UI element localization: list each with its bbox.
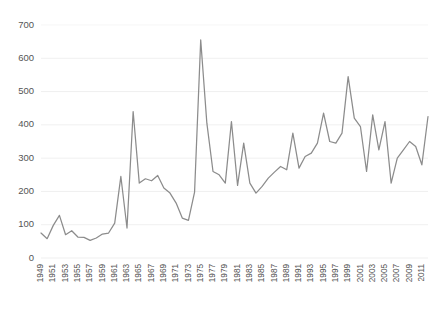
x-tick-label-1953: 1953 — [61, 264, 70, 283]
x-tick-label-1991: 1991 — [294, 264, 303, 283]
y-tick-label-500: 500 — [18, 85, 34, 96]
y-tick-label-700: 700 — [18, 19, 34, 30]
plot-area: 0100200300400500600700 19491951195319551… — [0, 0, 440, 317]
chart-container: 0100200300400500600700 19491951195319551… — [0, 0, 440, 317]
x-tick-label-1989: 1989 — [282, 264, 291, 283]
x-tick-label-1993: 1993 — [306, 264, 315, 283]
x-tick-label-1951: 1951 — [48, 264, 57, 283]
x-tick-label-1995: 1995 — [319, 264, 328, 283]
x-tick-label-1983: 1983 — [245, 264, 254, 283]
x-tick-label-1975: 1975 — [196, 264, 205, 283]
y-tick-label-300: 300 — [18, 152, 34, 163]
y-tick-label-600: 600 — [18, 52, 34, 63]
x-tick-label-1979: 1979 — [220, 264, 229, 283]
x-tick-label-2009: 2009 — [405, 264, 414, 283]
x-tick-label-1959: 1959 — [98, 264, 107, 283]
y-tick-label-200: 200 — [18, 185, 34, 196]
y-tick-label-100: 100 — [18, 218, 34, 229]
x-tick-label-1963: 1963 — [122, 264, 131, 283]
x-tick-label-1981: 1981 — [233, 264, 242, 283]
x-tick-label-1985: 1985 — [257, 264, 266, 283]
x-tick-label-2001: 2001 — [356, 264, 365, 283]
x-tick-label-1997: 1997 — [331, 264, 340, 283]
x-tick-label-2005: 2005 — [380, 264, 389, 283]
x-tick-label-1987: 1987 — [270, 264, 279, 283]
x-axis-ticks-group: 1949195119531955195719591961196319651967… — [36, 264, 426, 283]
line-chart-svg: 0100200300400500600700 19491951195319551… — [0, 0, 440, 317]
x-tick-label-1971: 1971 — [171, 264, 180, 283]
x-tick-label-1973: 1973 — [184, 264, 193, 283]
x-tick-label-1961: 1961 — [110, 264, 119, 283]
x-tick-label-1969: 1969 — [159, 264, 168, 283]
x-tick-label-1977: 1977 — [208, 264, 217, 283]
x-tick-label-2003: 2003 — [368, 264, 377, 283]
x-tick-label-1967: 1967 — [147, 264, 156, 283]
x-tick-label-2007: 2007 — [392, 264, 401, 283]
y-axis-ticks-group: 0100200300400500600700 — [18, 19, 34, 263]
x-tick-label-1949: 1949 — [36, 264, 45, 283]
x-tick-label-1965: 1965 — [134, 264, 143, 283]
x-tick-label-1999: 1999 — [343, 264, 352, 283]
y-tick-label-0: 0 — [29, 252, 34, 263]
data-line-series-1 — [41, 40, 428, 240]
y-tick-label-400: 400 — [18, 118, 34, 129]
x-tick-label-1955: 1955 — [73, 264, 82, 283]
x-tick-label-2011: 2011 — [417, 264, 426, 282]
x-tick-label-1957: 1957 — [85, 264, 94, 283]
